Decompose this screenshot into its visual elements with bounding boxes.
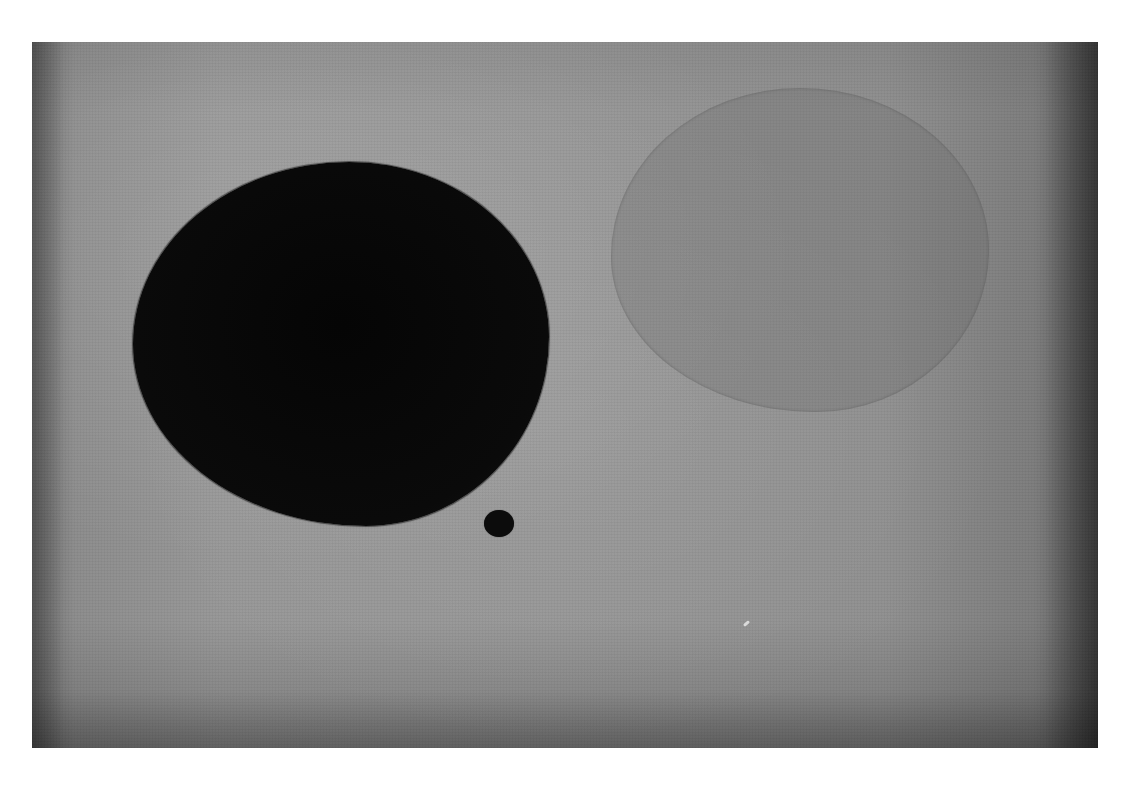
painting-canvas bbox=[32, 42, 1098, 748]
light-scratch-mark bbox=[743, 620, 750, 627]
artwork-page bbox=[0, 0, 1135, 802]
large-black-circle bbox=[133, 162, 549, 526]
small-black-dot bbox=[484, 510, 514, 537]
faint-gray-circle bbox=[611, 88, 989, 412]
